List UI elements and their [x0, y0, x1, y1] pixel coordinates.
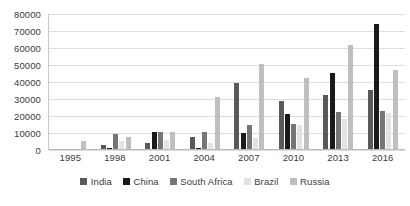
legend-label: India — [91, 176, 112, 187]
bar — [297, 125, 302, 149]
bar-group — [227, 14, 272, 149]
bar — [253, 138, 258, 149]
bar — [126, 137, 131, 149]
bar — [241, 133, 246, 149]
x-axis-tick-label: 1995 — [48, 152, 93, 168]
bar — [323, 95, 328, 149]
bar — [196, 148, 201, 149]
gridline — [49, 150, 405, 151]
x-axis-tick-label: 2013 — [316, 152, 361, 168]
bar — [215, 97, 220, 149]
bar — [152, 132, 157, 149]
bar — [386, 113, 391, 149]
y-axis-tick-label: 70000 — [14, 26, 41, 37]
bar-chart: 8000070000600005000040000300002000010000… — [0, 0, 410, 206]
legend-item[interactable]: China — [123, 176, 159, 187]
x-axis-tick-label: 1998 — [93, 152, 138, 168]
bar — [380, 111, 385, 149]
legend-item[interactable]: Brazil — [244, 176, 279, 187]
legend-swatch-icon — [290, 178, 297, 185]
bar-group — [138, 14, 183, 149]
bar — [208, 143, 213, 149]
y-axis-tick-label: 30000 — [14, 94, 41, 105]
plot-wrapper: 8000070000600005000040000300002000010000… — [0, 0, 410, 170]
bar-group — [272, 14, 317, 149]
chart-legend: IndiaChinaSouth AfricaBrazilRussia — [0, 176, 410, 187]
plot-area — [48, 14, 405, 150]
bar — [81, 141, 86, 150]
bar — [374, 24, 379, 149]
y-axis-tick-label: 10000 — [14, 128, 41, 139]
bar — [336, 112, 341, 149]
bar — [164, 140, 169, 149]
y-axis-tick-label: 40000 — [14, 77, 41, 88]
legend-label: Russia — [300, 176, 330, 187]
legend-item[interactable]: India — [80, 176, 112, 187]
bar — [170, 132, 175, 149]
x-axis-tick-label: 2004 — [182, 152, 227, 168]
x-axis-tick-label: 2001 — [137, 152, 182, 168]
bar — [158, 132, 163, 149]
legend-item[interactable]: Russia — [290, 176, 330, 187]
legend-swatch-icon — [80, 178, 87, 185]
legend-swatch-icon — [244, 178, 251, 185]
bar-group — [316, 14, 361, 149]
y-axis-tick-label: 20000 — [14, 111, 41, 122]
bar — [304, 78, 309, 149]
bar — [330, 73, 335, 150]
legend-swatch-icon — [123, 178, 130, 185]
bar — [393, 70, 398, 149]
bar — [202, 132, 207, 149]
bar — [234, 83, 239, 149]
x-axis: 19951998200120042007201020132016 — [48, 152, 405, 168]
bar — [101, 145, 106, 149]
bar-group — [94, 14, 139, 149]
bar-group — [49, 14, 94, 149]
bars-layer — [49, 14, 405, 149]
legend-item[interactable]: South Africa — [170, 176, 233, 187]
bar — [342, 119, 347, 149]
bar — [247, 125, 252, 149]
bar — [285, 114, 290, 149]
bar — [119, 141, 124, 150]
bar — [291, 124, 296, 150]
bar-group — [361, 14, 406, 149]
y-axis-tick-label: 0 — [36, 145, 41, 156]
x-axis-tick-label: 2010 — [271, 152, 316, 168]
y-axis-tick-label: 50000 — [14, 60, 41, 71]
bar — [190, 137, 195, 149]
legend-label: China — [133, 176, 158, 187]
y-axis-tick-label: 60000 — [14, 43, 41, 54]
bar-group — [183, 14, 228, 149]
legend-label: Brazil — [254, 176, 278, 187]
x-axis-tick-label: 2016 — [360, 152, 405, 168]
bar — [279, 101, 284, 149]
bar — [107, 148, 112, 149]
legend-label: South Africa — [180, 176, 232, 187]
y-axis-tick-label: 80000 — [14, 9, 41, 20]
bar — [145, 143, 150, 149]
y-axis: 8000070000600005000040000300002000010000… — [0, 0, 46, 170]
bar — [259, 64, 264, 149]
bar — [368, 90, 373, 150]
bar — [348, 45, 353, 149]
bar — [113, 134, 118, 149]
x-axis-tick-label: 2007 — [227, 152, 272, 168]
legend-swatch-icon — [170, 178, 177, 185]
